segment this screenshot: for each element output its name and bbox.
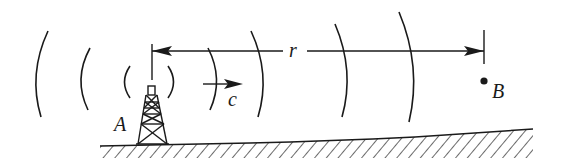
source-label: A <box>112 113 127 135</box>
speed-label: c <box>228 88 237 110</box>
wavefront-right-1 <box>168 66 174 98</box>
distance-dimension <box>152 30 484 80</box>
speed-arrow <box>203 79 243 89</box>
wavefront-right-2 <box>208 48 217 110</box>
radio-tower-icon <box>136 86 169 144</box>
wavefront-right-4 <box>335 24 347 117</box>
receiver-label: B <box>492 80 504 102</box>
wavefront-right-3 <box>251 31 263 117</box>
wavefront-left-1 <box>125 66 131 98</box>
wave-diagram: r c A B <box>0 0 561 165</box>
wavefront-right-5 <box>399 12 414 122</box>
wavefronts <box>36 12 414 122</box>
wavefront-left-3 <box>36 31 48 117</box>
wavefront-left-2 <box>81 48 90 110</box>
receiver-point <box>480 77 487 84</box>
distance-label: r <box>289 39 297 61</box>
